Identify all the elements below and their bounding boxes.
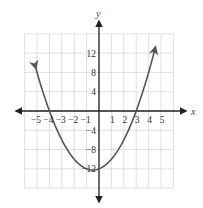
parabola-chart: −5−4−3−2−112345 1284−4−8−12 x y	[0, 0, 203, 208]
x-tick-label: 1	[110, 115, 115, 125]
y-tick-label: 8	[91, 68, 96, 78]
x-tick-label: 3	[135, 115, 140, 125]
x-tick-labels: −5−4−3−2−112345	[31, 115, 165, 125]
x-tick-label: −2	[68, 115, 78, 125]
x-tick-label: 2	[122, 115, 127, 125]
x-tick-label: 4	[147, 115, 152, 125]
x-tick-label: −1	[81, 115, 91, 125]
y-tick-label: 4	[91, 87, 96, 97]
axes	[16, 21, 186, 202]
y-tick-label: −8	[86, 145, 96, 155]
x-tick-label: 5	[160, 115, 165, 125]
y-tick-label: −12	[81, 164, 96, 174]
y-tick-label: 12	[87, 49, 97, 59]
x-tick-label: −3	[56, 115, 66, 125]
y-axis-label: y	[95, 8, 101, 19]
x-tick-label: −5	[31, 115, 41, 125]
x-axis-label: x	[190, 106, 196, 117]
y-tick-label: −4	[86, 126, 96, 136]
x-tick-label: −4	[43, 115, 53, 125]
